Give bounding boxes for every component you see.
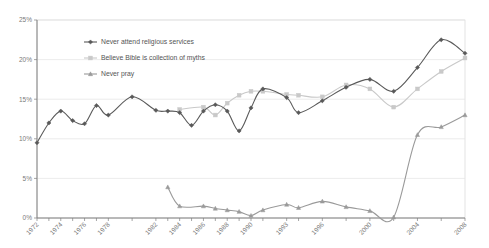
data-point-marker <box>88 40 92 44</box>
legend: Never attend religious servicesBelieve B… <box>84 38 205 78</box>
legend-item-label: Never attend religious services <box>101 38 195 46</box>
x-axis-tick-label: 1982 <box>143 220 158 235</box>
series-line <box>168 115 465 222</box>
data-point-marker <box>249 106 253 110</box>
y-axis-tick-label: 5% <box>23 175 33 182</box>
data-point-marker <box>439 70 443 74</box>
x-axis-tick-label: 1996 <box>310 220 325 235</box>
legend-item[interactable]: Never attend religious services <box>84 38 195 46</box>
data-point-marker <box>225 101 229 105</box>
data-point-marker <box>154 108 158 112</box>
data-point-marker <box>296 111 300 115</box>
data-point-marker <box>320 95 324 99</box>
legend-item-label: Never pray <box>101 70 135 78</box>
data-point-marker <box>463 113 467 117</box>
series-bible_myths <box>178 56 467 117</box>
chart-container: 0%5%10%15%20%25%197219741976197819821984… <box>0 0 489 248</box>
data-point-marker <box>463 56 467 60</box>
x-axis-tick-label: 1988 <box>215 220 230 235</box>
data-point-marker <box>166 109 170 113</box>
legend-item[interactable]: Never pray <box>84 70 135 78</box>
data-point-marker <box>392 105 396 109</box>
data-point-marker <box>89 56 93 60</box>
data-point-marker <box>368 77 372 81</box>
legend-item[interactable]: Believe Bible is collection of myths <box>84 54 205 62</box>
y-axis-tick-label: 0% <box>23 214 33 221</box>
y-axis-tick-label: 15% <box>19 96 32 103</box>
line-chart: 0%5%10%15%20%25%197219741976197819821984… <box>0 0 489 248</box>
x-axis-tick-label: 1986 <box>191 220 206 235</box>
data-point-marker <box>416 87 420 91</box>
data-point-marker <box>130 95 134 99</box>
x-axis-tick-label: 2000 <box>357 220 372 235</box>
x-axis-tick-label: 1972 <box>25 220 40 235</box>
data-point-marker <box>249 89 253 93</box>
x-axis-tick-label: 1984 <box>167 220 182 235</box>
legend-item-label: Believe Bible is collection of myths <box>101 54 205 62</box>
data-point-marker <box>202 105 206 109</box>
y-axis-tick-label: 25% <box>19 16 32 23</box>
x-axis-tick-label: 1974 <box>48 220 63 235</box>
data-point-marker <box>368 87 372 91</box>
data-point-marker <box>166 185 170 189</box>
data-point-marker <box>213 103 217 107</box>
data-point-marker <box>189 123 193 127</box>
x-axis-tick-label: 2004 <box>405 220 420 235</box>
data-point-marker <box>439 38 443 42</box>
data-point-marker <box>392 89 396 93</box>
x-axis-tick-label: 1976 <box>72 220 87 235</box>
data-point-marker <box>297 93 301 97</box>
x-axis-tick-label: 1990 <box>239 220 254 235</box>
series-never_pray <box>166 113 467 222</box>
x-axis-tick-label: 2008 <box>453 220 468 235</box>
data-point-marker <box>237 93 241 97</box>
y-axis-tick-label: 20% <box>19 56 32 63</box>
y-axis-tick-label: 10% <box>19 135 32 142</box>
x-axis-tick-label: 1993 <box>274 220 289 235</box>
data-point-marker <box>213 113 217 117</box>
plot-area-border <box>37 20 465 218</box>
data-point-marker <box>59 109 63 113</box>
data-point-marker <box>106 113 110 117</box>
x-axis-tick-label: 1978 <box>96 220 111 235</box>
